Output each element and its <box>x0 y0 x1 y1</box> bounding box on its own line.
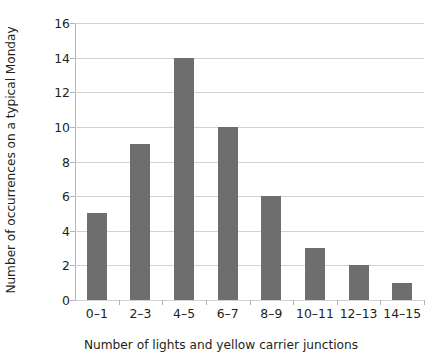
gridline <box>75 23 424 24</box>
y-axis-tick-mark <box>70 127 75 128</box>
y-axis-tick-label: 0 <box>40 293 70 308</box>
bar <box>130 144 150 300</box>
x-axis-tick-mark <box>162 300 163 305</box>
y-axis-tick-mark <box>70 231 75 232</box>
gridline <box>75 162 424 163</box>
y-axis-tick-mark <box>70 300 75 301</box>
y-axis-tick-labels: 0246810121416 <box>38 23 70 300</box>
bar <box>392 283 412 300</box>
y-axis-tick-mark <box>70 92 75 93</box>
bar <box>87 213 107 300</box>
y-axis-tick-label: 2 <box>40 258 70 273</box>
y-axis-title-text: Number of occurrences on a typical Monda… <box>4 26 18 293</box>
x-axis-tick-mark <box>250 300 251 305</box>
bar <box>305 248 325 300</box>
x-axis-tick-mark <box>337 300 338 305</box>
y-axis-tick-label: 12 <box>40 85 70 100</box>
y-axis-tick-label: 14 <box>40 50 70 65</box>
x-axis-tick-mark <box>380 300 381 305</box>
bar <box>261 196 281 300</box>
y-axis-tick-label: 10 <box>40 119 70 134</box>
y-axis-title: Number of occurrences on a typical Monda… <box>0 0 22 320</box>
gridline <box>75 196 424 197</box>
plot-area <box>75 23 424 300</box>
gridline <box>75 92 424 93</box>
y-axis-tick-mark <box>70 265 75 266</box>
x-axis-tick-mark <box>293 300 294 305</box>
y-axis-tick-label: 8 <box>40 154 70 169</box>
x-axis-tick-labels: 0–12–34–56–78–910–1112–1314–15 <box>75 306 425 322</box>
y-axis-tick-mark <box>70 162 75 163</box>
gridline <box>75 127 424 128</box>
x-axis-title: Number of lights and yellow carrier junc… <box>0 338 442 352</box>
bar <box>218 127 238 300</box>
y-axis-tick-mark <box>70 196 75 197</box>
y-axis-tick-label: 16 <box>40 16 70 31</box>
gridline <box>75 58 424 59</box>
bar <box>174 58 194 300</box>
x-axis-tick-mark <box>119 300 120 305</box>
gridline <box>75 265 424 266</box>
x-axis-tick-mark <box>424 300 425 305</box>
bar <box>349 265 369 300</box>
x-axis-tick-mark <box>206 300 207 305</box>
y-axis-tick-label: 4 <box>40 223 70 238</box>
y-axis-tick-label: 6 <box>40 189 70 204</box>
gridline <box>75 231 424 232</box>
y-axis-tick-mark <box>70 58 75 59</box>
y-axis-tick-mark <box>70 23 75 24</box>
x-axis-tick-label: 14–15 <box>374 306 430 321</box>
